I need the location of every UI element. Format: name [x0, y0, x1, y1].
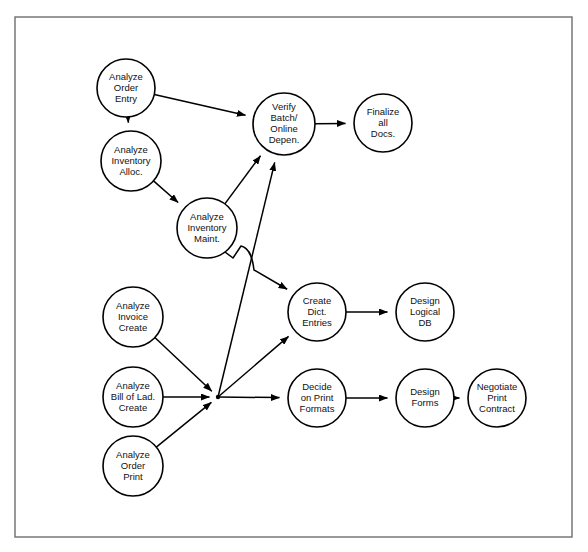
edge-order-entry-to-verify: [154, 94, 245, 115]
node-label-create-dict-entries: Entries: [302, 317, 332, 328]
node-label-analyze-order-entry: Analyze: [109, 71, 143, 82]
node-label-design-forms: Forms: [412, 397, 439, 408]
node-decide-print-formats[interactable]: Decideon PrintFormats: [288, 369, 346, 427]
node-label-negotiate-print-contract: Negotiate: [477, 381, 518, 392]
node-label-analyze-inventory-maint: Maint.: [194, 233, 220, 244]
node-label-finalize-all-docs: Finalize: [367, 106, 400, 117]
node-label-analyze-invoice-create: Analyze: [116, 300, 150, 311]
node-label-decide-print-formats: Formats: [300, 403, 335, 414]
node-negotiate-print-contract[interactable]: NegotiatePrintContract: [468, 369, 526, 427]
node-label-analyze-inventory-maint: Analyze: [190, 211, 224, 222]
node-label-analyze-bill-of-lad: Analyze: [116, 380, 150, 391]
node-label-design-forms: Design: [410, 386, 440, 397]
node-label-analyze-invoice-create: Create: [119, 322, 148, 333]
node-label-design-logical-db: Logical: [410, 306, 440, 317]
nodes-layer: AnalyzeOrderEntryAnalyzeInventoryAlloc.A…: [97, 59, 526, 496]
node-label-design-logical-db: DB: [418, 317, 431, 328]
node-label-analyze-order-print: Order: [121, 460, 145, 471]
edge-invoice-create-to-junction: [155, 338, 212, 392]
node-label-analyze-inventory-maint: Inventory: [187, 222, 226, 233]
node-label-verify-batch-online: Online: [270, 123, 297, 134]
edge-inventory-maint-to-verify: [225, 156, 261, 204]
node-label-analyze-bill-of-lad: Bill of Lad.: [111, 391, 155, 402]
node-label-negotiate-print-contract: Contract: [479, 403, 515, 414]
node-label-analyze-inventory-alloc: Analyze: [114, 144, 148, 155]
node-label-analyze-bill-of-lad: Create: [119, 402, 148, 413]
node-create-dict-entries[interactable]: CreateDict.Entries: [288, 283, 346, 341]
edge-junction-to-verify: [218, 162, 275, 397]
node-label-analyze-order-entry: Order: [114, 82, 138, 93]
node-label-finalize-all-docs: all: [378, 117, 388, 128]
node-label-design-logical-db: Design: [410, 295, 440, 306]
edge-junction-to-create-dict: [218, 336, 289, 397]
node-analyze-inventory-maint[interactable]: AnalyzeInventoryMaint.: [177, 198, 237, 258]
node-label-analyze-invoice-create: Invoice: [118, 311, 148, 322]
dependency-diagram: AnalyzeOrderEntryAnalyzeInventoryAlloc.A…: [0, 0, 588, 552]
node-label-decide-print-formats: Decide: [302, 381, 332, 392]
diagram-canvas: AnalyzeOrderEntryAnalyzeInventoryAlloc.A…: [0, 0, 588, 552]
node-label-verify-batch-online: Batch/: [271, 112, 298, 123]
node-label-analyze-order-print: Print: [123, 471, 143, 482]
node-verify-batch-online[interactable]: VerifyBatch/OnlineDepen.: [253, 93, 315, 155]
node-label-finalize-all-docs: Docs.: [371, 128, 395, 139]
node-label-create-dict-entries: Create: [303, 295, 332, 306]
node-label-verify-batch-online: Verify: [272, 101, 296, 112]
node-label-decide-print-formats: on Print: [301, 392, 334, 403]
edge-inventory-alloc-to-maint: [154, 181, 179, 203]
node-design-logical-db[interactable]: DesignLogicalDB: [396, 283, 454, 341]
node-design-forms[interactable]: DesignForms: [396, 369, 454, 427]
node-label-analyze-order-entry: Entry: [115, 93, 137, 104]
node-label-analyze-inventory-alloc: Alloc.: [119, 166, 142, 177]
node-finalize-all-docs[interactable]: FinalizeallDocs.: [354, 94, 412, 152]
node-label-analyze-order-print: Analyze: [116, 449, 150, 460]
edge-junction-to-decide-print: [218, 397, 280, 398]
node-label-verify-batch-online: Depen.: [269, 134, 300, 145]
node-analyze-order-entry[interactable]: AnalyzeOrderEntry: [97, 59, 155, 117]
edge-inventory-maint-to-create-dict: [225, 246, 287, 289]
node-label-negotiate-print-contract: Print: [487, 392, 507, 403]
node-analyze-order-print[interactable]: AnalyzeOrderPrint: [103, 436, 163, 496]
node-label-create-dict-entries: Dict.: [308, 306, 327, 317]
node-analyze-bill-of-lad[interactable]: AnalyzeBill of Lad.Create: [103, 367, 163, 427]
node-analyze-invoice-create[interactable]: AnalyzeInvoiceCreate: [103, 287, 163, 347]
node-label-analyze-inventory-alloc: Inventory: [111, 155, 150, 166]
node-analyze-inventory-alloc[interactable]: AnalyzeInventoryAlloc.: [101, 131, 161, 191]
fan-junction-point: [216, 395, 220, 399]
edge-order-print-to-junction: [156, 402, 211, 447]
